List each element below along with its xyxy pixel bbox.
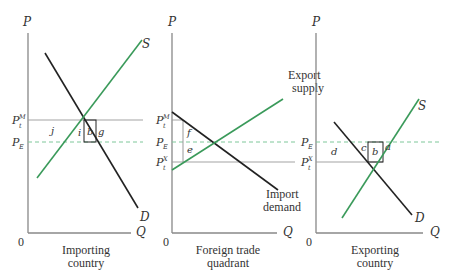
svg-text:X: X xyxy=(307,155,313,163)
svg-text:t: t xyxy=(163,164,166,172)
panel-caption-line2: country xyxy=(68,256,105,270)
y-axis-label: P xyxy=(311,15,321,29)
demand-label: D xyxy=(139,210,150,224)
price-label-pm: P M t xyxy=(155,113,170,130)
supply-label: S xyxy=(142,37,150,51)
export-supply-label-line2: supply xyxy=(292,81,324,95)
demand-curve xyxy=(334,122,412,215)
price-label-px: P X t xyxy=(155,155,168,172)
svg-text:t: t xyxy=(19,122,22,130)
supply-label: S xyxy=(418,99,426,113)
panel-caption-line2: country xyxy=(357,256,394,270)
supply-curve xyxy=(342,99,419,218)
trade-diagram: P Q 0 S D P M t P E j i b g Importing co… xyxy=(0,0,451,280)
price-label-pe: P E xyxy=(155,136,168,151)
svg-text:X: X xyxy=(162,155,168,163)
area-label-a: a xyxy=(385,141,391,152)
y-axis-label: P xyxy=(22,15,32,29)
supply-curve xyxy=(37,40,142,178)
area-label-j: j xyxy=(49,125,54,136)
demand-label: D xyxy=(414,211,425,225)
area-label-d: d xyxy=(331,146,337,157)
area-label-g: g xyxy=(98,126,104,137)
price-label-pe: P E xyxy=(11,136,24,151)
origin-label: 0 xyxy=(18,235,24,249)
import-demand-label-line2: demand xyxy=(263,200,301,214)
svg-text:t: t xyxy=(308,164,311,172)
panel-exporting-country: P Q 0 S D P E P X t d c b a Exporting co… xyxy=(300,15,440,270)
svg-text:M: M xyxy=(162,113,170,121)
svg-text:E: E xyxy=(18,143,24,151)
panel-caption-line1: Foreign trade xyxy=(196,243,260,257)
panel-importing-country: P Q 0 S D P M t P E j i b g Importing co… xyxy=(11,15,150,270)
svg-text:E: E xyxy=(307,143,313,151)
area-label-b: b xyxy=(87,126,93,137)
import-demand-label-line1: Import xyxy=(266,187,299,201)
area-label-f: f xyxy=(186,127,193,138)
x-axis-label: Q xyxy=(430,225,440,239)
svg-text:E: E xyxy=(162,143,168,151)
area-label-c: c xyxy=(361,142,367,153)
x-axis-label: Q xyxy=(283,225,293,239)
area-label-b: b xyxy=(372,146,378,157)
price-label-pe: P E xyxy=(300,136,313,151)
panel-caption-line1: Importing xyxy=(62,243,110,257)
x-axis-label: Q xyxy=(136,225,146,239)
y-axis-label: P xyxy=(167,15,177,29)
area-label-i: i xyxy=(78,127,81,138)
svg-text:t: t xyxy=(163,122,166,130)
panel-foreign-trade: P Q 0 Export supply Import demand P M t … xyxy=(155,15,324,270)
price-label-pm: P M t xyxy=(11,113,26,130)
price-label-px: P X t xyxy=(300,155,313,172)
panel-caption-line2: quadrant xyxy=(207,256,250,270)
origin-label: 0 xyxy=(163,235,169,249)
svg-text:M: M xyxy=(18,113,26,121)
panel-caption-line1: Exporting xyxy=(351,243,399,257)
area-label-e: e xyxy=(187,144,193,155)
origin-label: 0 xyxy=(306,235,312,249)
